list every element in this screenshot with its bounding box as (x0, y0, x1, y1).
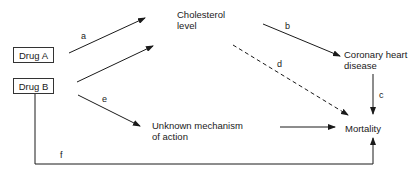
chd-line2: disease (344, 60, 407, 71)
node-chd: Coronary heart disease (344, 49, 407, 71)
node-unknown-mechanism: Unknown mechanism of action (152, 120, 243, 142)
node-drug-a: Drug A (13, 47, 54, 63)
drug-a-label: Drug A (19, 50, 48, 61)
edge-label-a: a (81, 31, 86, 41)
edge-label-d: d (277, 59, 282, 69)
edge-label-f: f (60, 150, 63, 160)
edge-e (78, 95, 140, 126)
edge-drugb-cholesterol (77, 46, 153, 82)
chd-line1: Coronary heart (344, 49, 407, 60)
edge-b (263, 24, 340, 56)
cholesterol-line2: level (177, 20, 225, 31)
node-mortality: Mortality (345, 123, 381, 134)
cholesterol-line1: Cholesterol (177, 9, 225, 20)
edge-label-c: c (379, 90, 384, 100)
edge-d (233, 45, 348, 115)
edge-label-b: b (285, 21, 290, 31)
drug-b-label: Drug B (19, 81, 49, 92)
unknown-line2: of action (152, 131, 243, 142)
mortality-label: Mortality (345, 123, 381, 134)
node-drug-b: Drug B (13, 78, 54, 94)
node-cholesterol: Cholesterol level (177, 9, 225, 31)
unknown-line1: Unknown mechanism (152, 120, 243, 131)
edge-label-e: e (102, 94, 107, 104)
